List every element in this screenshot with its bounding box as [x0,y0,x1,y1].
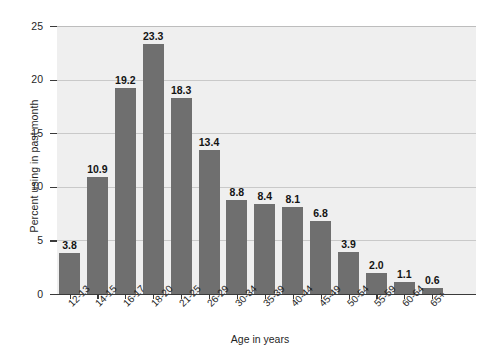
bar [226,200,247,294]
bar-value-label: 23.3 [134,30,173,42]
bar [310,221,331,294]
y-tick-label: 15 [3,127,43,139]
bar-value-label: 19.2 [106,74,145,86]
y-tick-label: 10 [3,180,43,192]
bar [87,177,108,294]
y-tick-label: 5 [3,234,43,246]
x-axis-title: Age in years [0,333,498,345]
y-tick-mark [50,133,57,134]
bar-value-label: 10.9 [78,163,117,175]
bar [254,204,275,294]
bar-value-label: 6.8 [301,207,340,219]
y-tick-mark [50,26,57,27]
x-axis-line [50,294,476,295]
bar-chart-figure: Percent using in past month 25 20 15 10 … [0,0,498,355]
bar [115,88,136,294]
bar-value-label: 13.4 [190,136,229,148]
y-tick-label: 0 [3,288,43,300]
bar-value-label: 18.3 [162,84,201,96]
bar [171,98,192,294]
bar [143,44,164,294]
bar-value-label: 3.9 [329,238,368,250]
y-tick-label: 20 [3,73,43,85]
bar [59,253,80,294]
bar [199,150,220,294]
bar [282,207,303,294]
y-tick-mark [50,80,57,81]
bar-value-label: 8.1 [273,193,312,205]
bar-value-label: 3.8 [50,239,89,251]
y-tick-mark [50,187,57,188]
gridline-25 [57,26,476,27]
y-tick-label: 25 [3,20,43,32]
